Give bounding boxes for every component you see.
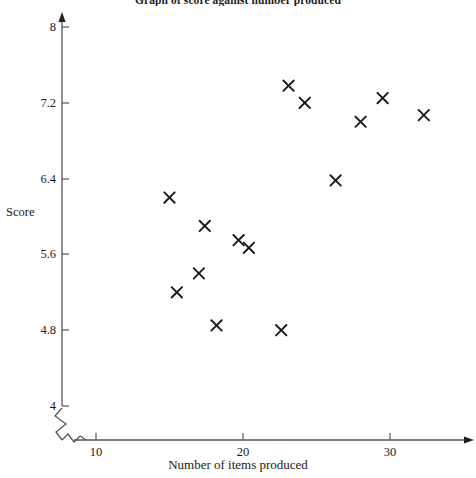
y-tick-label-7-2: 7.2 bbox=[20, 96, 56, 111]
data-point-marker bbox=[330, 175, 340, 185]
x-axis-break-icon bbox=[62, 434, 86, 442]
data-point-marker bbox=[300, 98, 310, 108]
data-point-marker bbox=[276, 325, 286, 335]
data-point-marker bbox=[164, 192, 174, 202]
scatter-chart: Graph of score against number produced bbox=[0, 0, 476, 478]
data-point-marker bbox=[419, 110, 429, 120]
y-tick-marks bbox=[62, 27, 69, 406]
plot-canvas bbox=[0, 0, 476, 478]
y-axis-break-icon bbox=[55, 408, 66, 440]
y-axis-arrowhead bbox=[58, 12, 65, 22]
y-tick-label-5-6: 5.6 bbox=[20, 247, 56, 262]
data-point-marker bbox=[233, 235, 243, 245]
x-tick-marks bbox=[96, 433, 390, 440]
data-point-marker bbox=[194, 268, 204, 278]
data-point-marker bbox=[211, 320, 221, 330]
x-axis-title: Number of items produced bbox=[0, 457, 476, 473]
x-axis-arrowhead bbox=[464, 436, 474, 443]
data-point-marker bbox=[283, 81, 293, 91]
y-tick-label-8: 8 bbox=[20, 20, 56, 35]
data-point-marker bbox=[355, 117, 365, 127]
data-point-layer bbox=[164, 81, 429, 336]
y-tick-label-4: 4 bbox=[20, 399, 56, 414]
data-point-marker bbox=[200, 221, 210, 231]
y-tick-label-6-4: 6.4 bbox=[20, 172, 56, 187]
data-point-marker bbox=[244, 243, 254, 253]
y-tick-label-4-8: 4.8 bbox=[20, 323, 56, 338]
y-axis-title: Score bbox=[6, 205, 34, 220]
data-point-marker bbox=[172, 287, 182, 297]
data-point-marker bbox=[377, 93, 387, 103]
